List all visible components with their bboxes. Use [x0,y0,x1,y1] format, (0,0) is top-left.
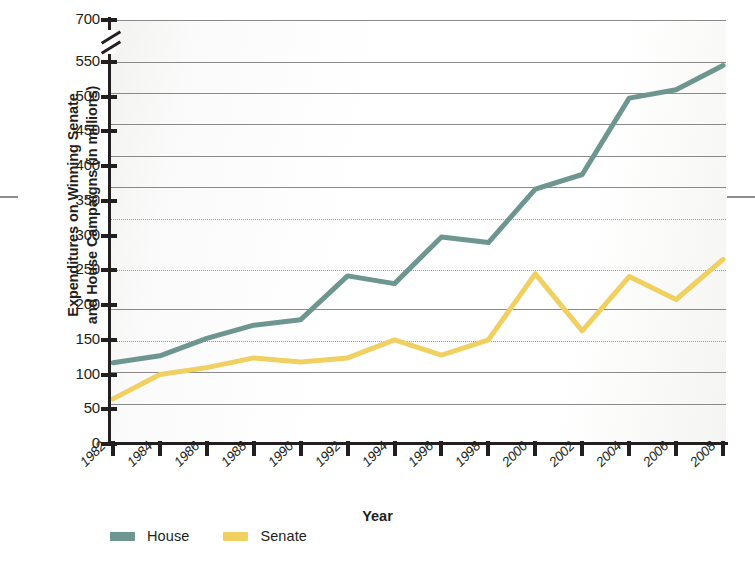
y-tick-350 [101,199,117,203]
x-tick-1994 [393,441,397,456]
legend-swatch-senate [223,532,248,541]
chart-figure: Expenditures on Winning Senate and House… [0,0,755,570]
y-tick-250 [101,268,117,272]
y-tick-100 [101,373,117,377]
plot-area [110,20,726,444]
x-tick-1998 [486,441,490,456]
y-tick-150 [101,338,117,342]
x-tick-2008 [721,441,725,456]
y-tick-label-150: 150 [56,330,100,347]
y-tick-label-250: 250 [56,260,100,277]
legend-item-senate[interactable]: Senate [223,528,307,544]
y-tick-500 [101,95,117,99]
y-tick-50 [101,407,117,411]
y-tick-label-300: 300 [56,226,100,243]
y-tick-200 [101,303,117,307]
y-tick-label-350: 350 [56,191,100,208]
y-axis-line [108,17,111,446]
legend-swatch-house [110,532,135,541]
line-series-senate [113,259,723,399]
legend-item-house[interactable]: House [110,528,189,544]
y-tick-label-450: 450 [56,121,100,138]
y-tick-label-200: 200 [56,295,100,312]
y-tick-label-700: 700 [56,10,100,27]
x-tick-1996 [439,441,443,456]
y-tick-label-50: 50 [56,399,100,416]
x-tick-2004 [627,441,631,456]
legend-label-senate: Senate [260,528,307,544]
x-tick-2000 [533,441,537,456]
x-tick-2002 [580,441,584,456]
y-tick-400 [101,164,117,168]
x-tick-1984 [158,441,162,456]
legend-label-house: House [147,528,189,544]
y-tick-label-100: 100 [56,365,100,382]
x-tick-1990 [299,441,303,456]
y-tick-label-500: 500 [56,87,100,104]
chart-legend: House Senate [110,528,307,544]
y-tick-label-550: 550 [56,52,100,69]
y-tick-450 [101,129,117,133]
y-tick-label-400: 400 [56,156,100,173]
page-margin-mark-right [727,196,755,198]
page-margin-mark-left [0,196,18,198]
x-tick-1986 [205,441,209,456]
x-tick-1992 [346,441,350,456]
x-tick-1982 [111,441,115,456]
x-axis-title: Year [0,508,755,524]
y-tick-300 [101,234,117,238]
y-tick-550 [101,60,117,64]
x-tick-2006 [674,441,678,456]
x-tick-1988 [252,441,256,456]
series-lines [110,20,726,444]
line-series-house [113,66,723,363]
y-tick-700 [101,18,117,22]
